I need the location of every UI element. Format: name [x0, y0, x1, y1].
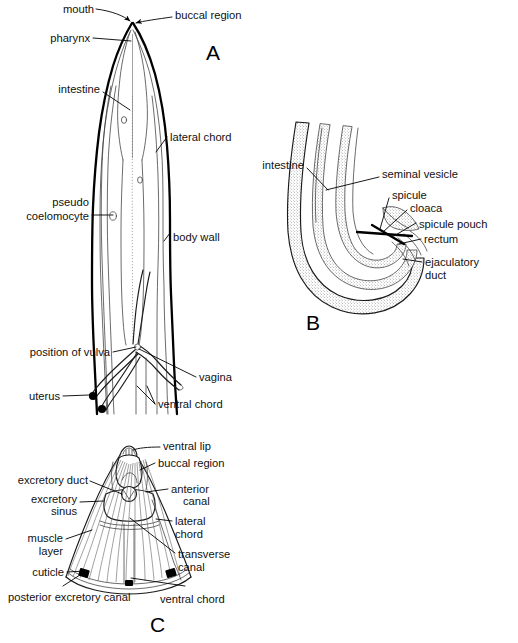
label-cuticle: cuticle	[32, 566, 64, 578]
panel-a-intestine-left	[121, 160, 126, 345]
panel-c-ventral-lip	[120, 446, 137, 455]
label-rectum: rectum	[424, 233, 458, 245]
label-body-wall: body wall	[173, 231, 220, 243]
panel-a-inner-right	[133, 30, 168, 414]
panel-a-uterus-arm-2b	[106, 357, 140, 410]
label-pseudo: pseudo	[52, 196, 89, 208]
label-chord: chord	[175, 528, 203, 540]
label-pharynx: pharynx	[50, 32, 90, 44]
leader-excretory-sinus	[80, 501, 104, 502]
leader-position-of-vulva	[113, 347, 136, 352]
panel-letter-c: C	[150, 613, 165, 636]
label-buccal-region-a: buccal region	[175, 9, 242, 21]
panel-b: intestine seminal vesicle spicule cloaca…	[262, 122, 487, 334]
label-ejaculatory: ejaculatory	[425, 256, 480, 268]
leader-buccal-region-a	[136, 17, 172, 23]
label-coelomocyte: coelomocyte	[26, 210, 89, 222]
label-excretory: excretory	[31, 493, 77, 505]
panel-a-uterus-tip-2	[98, 405, 106, 413]
leader-pharynx	[93, 38, 131, 41]
leader-posterior-excretory-canal	[63, 573, 83, 586]
label-spicule-pouch: spicule pouch	[419, 218, 487, 230]
panel-a-intestine-right	[139, 160, 144, 345]
label-intestine-a: intestine	[58, 83, 100, 95]
label-position-of-vulva: position of vulva	[30, 346, 111, 358]
label-ventral-lip: ventral lip	[163, 440, 211, 452]
panel-a-uterus-arm-2	[102, 353, 137, 406]
label-seminal-vesicle: seminal vesicle	[382, 168, 458, 180]
panel-b-lumen	[353, 128, 373, 254]
label-vagina: vagina	[199, 371, 233, 383]
label-posterior-excretory-canal: posterior excretory canal	[8, 591, 131, 603]
panel-a-body-wall-right	[133, 23, 177, 414]
label-ejaculatory-duct: duct	[425, 269, 447, 281]
label-excretory-duct: excretory duct	[18, 474, 89, 486]
panel-c-posterior-excretory-canal-left	[78, 568, 90, 578]
label-intestine-b: intestine	[262, 159, 304, 171]
panel-letter-b: B	[306, 311, 320, 334]
leader-ventral-chord-a	[147, 386, 155, 404]
panel-a-vagina-tip	[179, 385, 183, 390]
label-buccal-region-c: buccal region	[158, 457, 225, 469]
anatomy-figure: mouth buccal region pharynx intestine la…	[0, 0, 518, 643]
panel-c-ventral-chord-block	[125, 580, 133, 586]
leader-anterior-canal	[146, 489, 168, 492]
label-ventral-chord-c: ventral chord	[160, 593, 225, 605]
label-uterus: uterus	[29, 390, 60, 402]
label-ventral-chord-a: ventral chord	[158, 398, 223, 410]
panel-a-intestine-lumen	[132, 96, 133, 342]
label-layer: layer	[39, 545, 64, 557]
panel-c-buccal-region	[116, 455, 142, 488]
label-transverse: transverse	[178, 548, 230, 560]
panel-c: ventral lip buccal region excretory duct…	[8, 440, 230, 636]
panel-a-uterus-tip-1	[89, 392, 97, 400]
leader-uterus	[63, 395, 89, 396]
label-transverse-canal: canal	[178, 561, 205, 573]
panel-a: mouth buccal region pharynx intestine la…	[26, 3, 241, 414]
label-sinus: sinus	[51, 505, 78, 517]
label-mouth: mouth	[63, 3, 94, 15]
panel-a-pharynx-right	[135, 32, 147, 160]
leader-mouth	[96, 9, 130, 21]
label-cloaca: cloaca	[410, 202, 443, 214]
label-spicule: spicule	[392, 189, 427, 201]
panel-letter-a: A	[206, 41, 220, 64]
label-lateral: lateral	[175, 515, 205, 527]
panel-a-lateral-chord-line-2	[107, 86, 116, 414]
label-anterior-canal: canal	[183, 495, 210, 507]
panel-a-pseudocoelomocyte-2	[121, 117, 126, 124]
label-lateral-chord-a: lateral chord	[170, 131, 232, 143]
panel-a-uterus-branch-proximal-2	[133, 270, 143, 344]
panel-a-pseudocoelomocyte-3	[138, 177, 143, 183]
label-muscle: muscle	[28, 532, 63, 544]
leader-seminal-vesicle	[326, 177, 379, 190]
panel-a-pseudocoelomocyte	[110, 212, 117, 220]
leader-ventral-lip	[133, 447, 160, 450]
panel-a-pharynx	[118, 32, 130, 160]
label-anterior: anterior	[171, 483, 209, 495]
leader-ventral-chord-c	[131, 578, 185, 586]
